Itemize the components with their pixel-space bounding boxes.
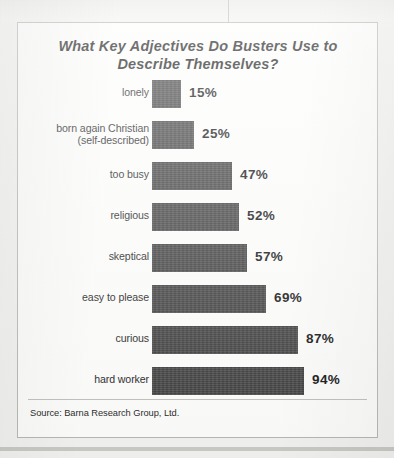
chart-title-line-2: Describe Themselves? bbox=[38, 55, 358, 73]
bar-fill bbox=[152, 285, 266, 313]
bar-fill bbox=[152, 326, 298, 354]
bar-category-label-line-1: religious bbox=[110, 209, 149, 221]
bar-track: 52% bbox=[152, 202, 377, 243]
bar-category-label: lonely bbox=[25, 87, 149, 99]
bar-row: hard worker 94% bbox=[18, 366, 377, 407]
bar-row: skeptical 57% bbox=[18, 243, 377, 284]
bar-fill bbox=[152, 244, 247, 272]
bar-category-label: skeptical bbox=[25, 251, 149, 263]
bar-category-label: hard worker bbox=[25, 374, 149, 386]
bar-fill bbox=[152, 121, 194, 149]
page-top-band bbox=[0, 0, 394, 20]
bar-category-label: too busy bbox=[25, 169, 149, 181]
bar-category-label-line-1: curious bbox=[116, 332, 149, 344]
bar-value-label: 15% bbox=[189, 85, 217, 100]
bar-row: religious 52% bbox=[18, 202, 377, 243]
bar-category-label: religious bbox=[25, 210, 149, 222]
bar-category-label-line-1: born again Christian bbox=[56, 122, 149, 134]
bar-row: born again Christian (self-described) 25… bbox=[18, 120, 377, 161]
bar-category-label: curious bbox=[25, 333, 149, 345]
bar-value-label: 69% bbox=[274, 290, 302, 305]
bar-track: 94% bbox=[152, 366, 377, 407]
bar-fill bbox=[152, 203, 239, 231]
bar-category-label: born again Christian (self-described) bbox=[25, 123, 149, 146]
page-bottom-band bbox=[0, 447, 394, 451]
bar-value-label: 87% bbox=[306, 331, 334, 346]
bar-row: lonely 15% bbox=[18, 79, 377, 120]
bar-value-label: 94% bbox=[312, 372, 340, 387]
bar-category-label: easy to please bbox=[25, 292, 149, 304]
source-note: Source: Barna Research Group, Ltd. bbox=[30, 408, 179, 418]
page-crop-mark bbox=[228, 0, 229, 22]
source-divider bbox=[28, 399, 367, 400]
bar-track: 47% bbox=[152, 161, 377, 202]
bar-track: 25% bbox=[152, 120, 377, 161]
bar-category-label-line-2: (self-described) bbox=[25, 135, 149, 147]
bar-track: 69% bbox=[152, 284, 377, 325]
bar-value-label: 25% bbox=[202, 126, 230, 141]
bar-category-label-line-1: easy to please bbox=[82, 291, 149, 303]
bar-value-label: 57% bbox=[255, 249, 283, 264]
bar-row: curious 87% bbox=[18, 325, 377, 366]
bar-category-label-line-1: skeptical bbox=[109, 250, 149, 262]
bar-track: 15% bbox=[152, 79, 377, 120]
bar-row: easy to please 69% bbox=[18, 284, 377, 325]
bar-category-label-line-1: hard worker bbox=[94, 373, 149, 385]
bar-fill bbox=[152, 162, 232, 190]
bar-value-label: 47% bbox=[240, 167, 268, 182]
bar-fill bbox=[152, 80, 181, 108]
chart-title-line-1: What Key Adjectives Do Busters Use to bbox=[38, 37, 358, 55]
chart-frame: What Key Adjectives Do Busters Use to De… bbox=[17, 22, 378, 438]
bar-row: too busy 47% bbox=[18, 161, 377, 202]
bar-track: 57% bbox=[152, 243, 377, 284]
bar-chart-plot-area: lonely 15% born again Christian (self-de… bbox=[18, 79, 377, 413]
bar-category-label-line-1: lonely bbox=[122, 86, 149, 98]
bar-category-label-line-1: too busy bbox=[110, 168, 149, 180]
bar-value-label: 52% bbox=[247, 208, 275, 223]
bar-fill bbox=[152, 367, 304, 395]
bar-track: 87% bbox=[152, 325, 377, 366]
chart-title: What Key Adjectives Do Busters Use to De… bbox=[38, 37, 358, 73]
